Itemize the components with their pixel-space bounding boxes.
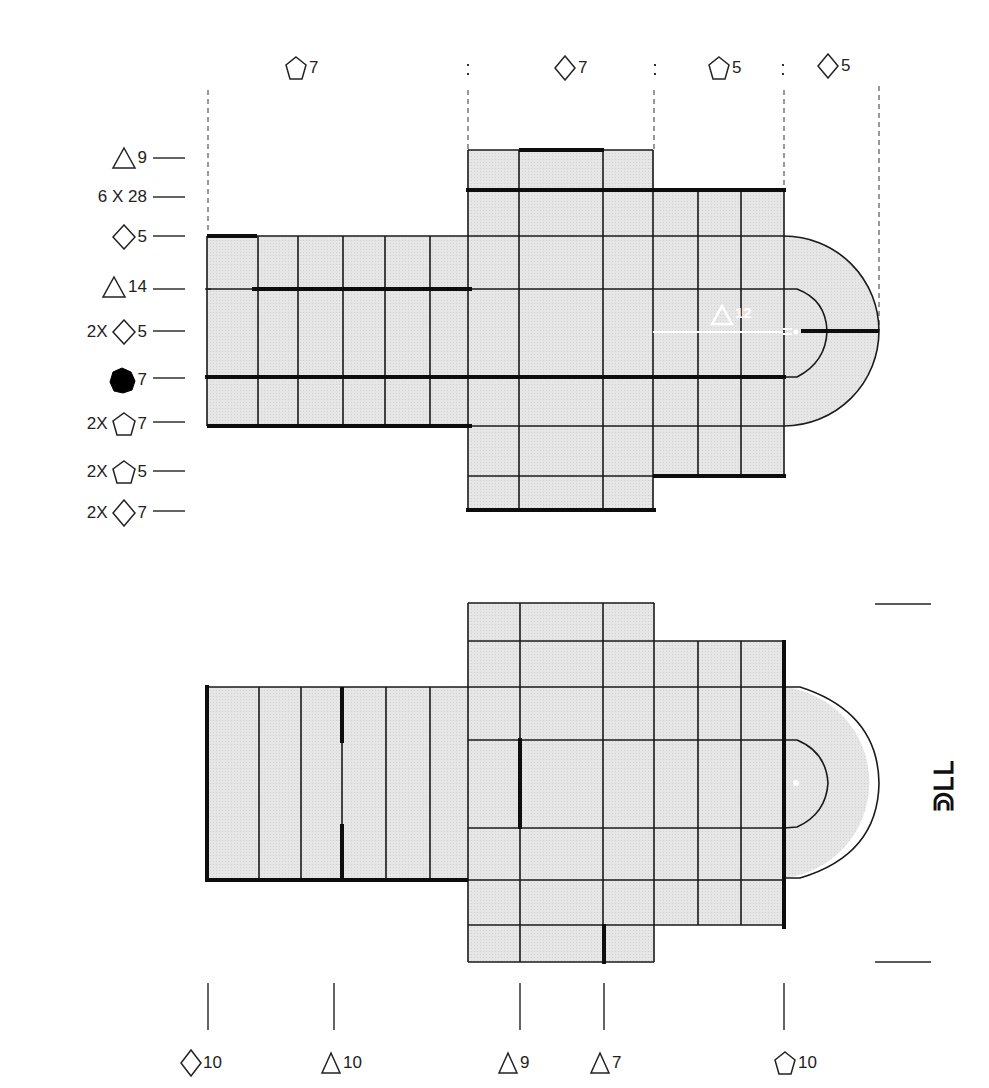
triangle-icon: [589, 1050, 611, 1076]
label-value: 10: [343, 1053, 362, 1073]
diamond-icon: [553, 55, 577, 81]
top-col-label-4: 5: [816, 53, 850, 79]
label-12: 12: [735, 304, 752, 321]
column-ticks: [208, 983, 784, 1030]
bottom-diagram: [207, 603, 931, 1030]
top-diagram: 12: [153, 64, 879, 511]
triangle-icon: [497, 1050, 519, 1076]
row-label-8: 2X 5: [87, 459, 147, 485]
label-value: 7: [138, 370, 147, 390]
label-value: 7: [138, 414, 147, 434]
diamond-icon: [180, 1048, 202, 1078]
bottom-col-label-1: 10: [180, 1048, 222, 1078]
top-col-label-2: 7: [553, 55, 587, 81]
top-fills: [207, 150, 879, 510]
side-text-label: ᒣᒣᕳ: [903, 760, 983, 810]
label-prefix: 6 X 28: [98, 187, 147, 207]
row-label-9: 2X 7: [87, 499, 147, 527]
row-label-5: 2X 5: [87, 319, 147, 345]
pentagon-icon: [707, 55, 731, 81]
label-value: 10: [203, 1053, 222, 1073]
label-value: 9: [138, 148, 147, 168]
pentagon-icon: [111, 411, 137, 437]
label-value: 7: [578, 58, 587, 78]
label-prefix: 2X: [87, 414, 108, 434]
row-label-7: 2X 7: [87, 411, 147, 437]
label-value: 5: [138, 227, 147, 247]
triangle-icon: [320, 1050, 342, 1076]
label-value: 5: [841, 56, 850, 76]
label-value: 5: [138, 322, 147, 342]
label-value: 9: [520, 1053, 529, 1073]
crochet-chart-canvas: 12: [0, 0, 989, 1088]
row-label-6: 7: [107, 366, 147, 394]
label-prefix: 2X: [87, 503, 108, 523]
diamond-icon: [111, 224, 137, 250]
diamond-icon: [111, 319, 137, 345]
bottom-col-label-3: 9: [497, 1050, 529, 1076]
diamond-icon: [816, 53, 840, 79]
pentagon-icon: [111, 459, 137, 485]
label-value: 7: [309, 58, 318, 78]
white-dot: [793, 780, 799, 786]
label-value: 5: [138, 462, 147, 482]
top-col-label-1: 7: [284, 55, 318, 81]
row-label-4: 14: [101, 275, 147, 299]
bottom-col-label-4: 7: [589, 1050, 621, 1076]
pentagon-icon: [284, 55, 308, 81]
row-ticks: [153, 158, 211, 511]
pentagon-icon: [773, 1050, 797, 1076]
filled-heptagon-icon: [107, 366, 137, 394]
triangle-icon: [101, 275, 127, 299]
label-value: 7: [612, 1053, 621, 1073]
top-col-label-3: 5: [707, 55, 741, 81]
row-label-2: 6 X 28: [98, 187, 147, 207]
label-value: 10: [798, 1053, 817, 1073]
bottom-fills: [207, 603, 869, 962]
label-value: 7: [138, 503, 147, 523]
label-prefix: 2X: [87, 462, 108, 482]
row-label-3: 5: [111, 224, 147, 250]
triangle-icon: [111, 146, 137, 170]
bottom-col-label-2: 10: [320, 1050, 362, 1076]
label-value: 14: [128, 277, 147, 297]
diamond-icon: [111, 499, 137, 527]
label-prefix: 2X: [87, 322, 108, 342]
label-value: 5: [732, 58, 741, 78]
row-label-1: 9: [111, 146, 147, 170]
bottom-col-label-5: 10: [773, 1050, 817, 1076]
